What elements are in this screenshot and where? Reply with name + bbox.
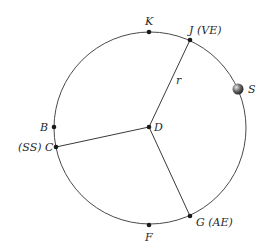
- label-c: (SS) C: [18, 141, 54, 154]
- radius-line-dc: [56, 127, 149, 147]
- label-d: D: [153, 121, 163, 134]
- point-g: [188, 214, 193, 219]
- point-f: [147, 223, 152, 228]
- point-c: [54, 145, 59, 150]
- label-r: r: [176, 74, 182, 87]
- label-f: F: [144, 231, 153, 244]
- point-j: [188, 38, 193, 43]
- sun-icon: [233, 84, 244, 95]
- label-g: G (AE): [196, 216, 233, 229]
- point-b: [52, 125, 57, 130]
- point-d: [147, 125, 152, 130]
- label-j: J (VE): [187, 24, 221, 37]
- radius-line-dg: [149, 127, 190, 216]
- orbit-diagram: K J (VE) r S B D (SS) C G (AE) F: [0, 0, 264, 249]
- label-s: S: [248, 83, 256, 96]
- label-b: B: [39, 121, 48, 134]
- radius-line-dj: [149, 40, 190, 127]
- label-k: K: [144, 15, 154, 28]
- point-k: [147, 30, 152, 35]
